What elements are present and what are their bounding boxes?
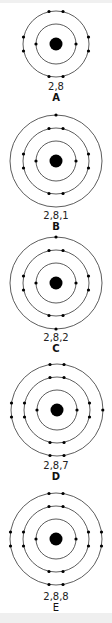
atom-e: 2,8,8 E xyxy=(0,487,112,613)
electron-configuration: 2,8,8 xyxy=(0,591,112,602)
bohr-diagram-b-icon xyxy=(0,110,112,215)
bohr-diagram-e-icon xyxy=(0,487,112,592)
bohr-diagram-d-icon xyxy=(0,358,112,463)
atom-b: 2,8,1 B xyxy=(0,110,112,232)
atom-label: C xyxy=(0,343,112,354)
bohr-diagram-c-icon xyxy=(0,232,112,337)
atom-d: 2,8,7 D xyxy=(0,358,112,483)
atom-label: E xyxy=(0,602,112,613)
electron-configuration: 2,8,1 xyxy=(0,210,112,221)
atom-a: 2,8 A xyxy=(0,0,112,110)
atom-label: D xyxy=(0,471,112,482)
atom-label: B xyxy=(0,221,112,232)
bottom-band xyxy=(0,613,112,623)
bohr-diagram-a-icon xyxy=(0,0,112,90)
atom-c: 2,8,2 C xyxy=(0,232,112,354)
atom-label: A xyxy=(0,92,112,103)
electron-configuration: 2,8 xyxy=(0,81,112,92)
electron-configuration: 2,8,2 xyxy=(0,332,112,343)
electron-configuration: 2,8,7 xyxy=(0,460,112,471)
